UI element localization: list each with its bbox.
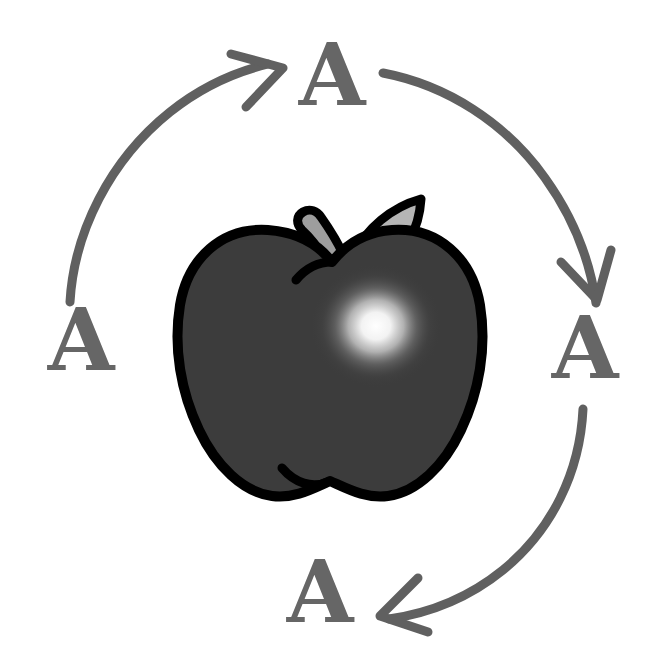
cycle-diagram-svg: A A A A [0, 0, 664, 663]
diagram-canvas: A A A A [0, 0, 664, 663]
node-bottom-label[interactable]: A [286, 541, 355, 642]
apple-illustration [177, 199, 482, 497]
node-top-label[interactable]: A [298, 24, 367, 125]
apple-highlight [310, 264, 442, 388]
arrow-left-to-top-head [231, 54, 283, 107]
arrow-right-to-bottom-head [380, 578, 428, 632]
node-right-label[interactable]: A [551, 297, 620, 398]
node-left-label[interactable]: A [47, 289, 116, 390]
